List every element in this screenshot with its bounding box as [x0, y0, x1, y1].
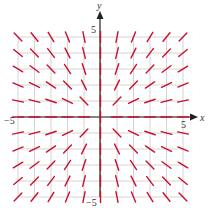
x-axis-arrow-icon — [190, 114, 198, 121]
slope-field-chart: y 5 −5 5 x −5 — [0, 0, 209, 215]
y-axis-arrow-icon — [97, 11, 104, 19]
x-max-tick-label: 5 — [181, 119, 186, 130]
x-min-tick-label: −5 — [4, 115, 15, 126]
y-max-tick-label: 5 — [91, 24, 96, 35]
axes — [18, 11, 198, 197]
y-min-tick-label: −5 — [86, 197, 97, 208]
slope-segments — [13, 32, 189, 203]
x-axis-label: x — [199, 112, 205, 123]
y-axis-label: y — [96, 0, 102, 11]
